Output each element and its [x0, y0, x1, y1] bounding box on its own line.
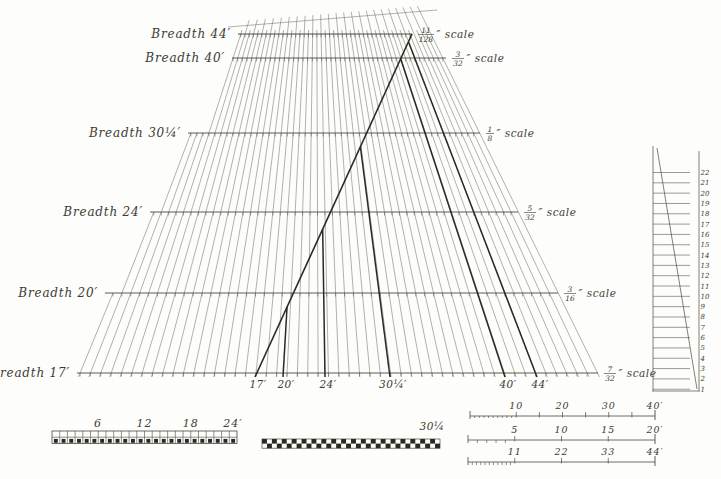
- fan-line: [344, 13, 391, 377]
- breadth-label: Breadth 44′: [150, 27, 231, 41]
- checker-cell: [425, 444, 430, 449]
- bar-dash: [123, 439, 127, 443]
- bar-dash: [200, 439, 204, 443]
- checker-cell: [292, 439, 297, 444]
- scale-fraction-numerator: 3: [456, 50, 461, 59]
- bar-dash: [100, 439, 104, 443]
- ruler-number: 16: [701, 231, 710, 239]
- fan-top-edge: [228, 10, 437, 27]
- checker-cell: [396, 444, 401, 449]
- bold-ray: [323, 229, 325, 377]
- fan-line: [366, 11, 453, 377]
- breadth-label: Breadth 20′: [17, 286, 98, 300]
- foot-ruler-number: 10: [509, 400, 523, 411]
- scale-label: ″ scale: [619, 367, 657, 379]
- checker-cell: [326, 444, 331, 449]
- scale-label: ″ scale: [497, 127, 535, 139]
- scale-fraction-numerator: 5: [528, 204, 533, 213]
- bar-number: 12: [137, 417, 153, 430]
- breadth-label: Breadth 17′: [0, 366, 70, 380]
- bar-dash: [54, 439, 58, 443]
- fan-line: [297, 30, 308, 377]
- ruler-number: 19: [701, 200, 710, 208]
- bar-dash: [92, 439, 96, 443]
- foot-ruler-number: 40′: [645, 400, 663, 411]
- scale-label: ″ scale: [467, 52, 505, 64]
- diagonal-scale-ruler: 22212019181716151413121110987654321: [652, 146, 710, 394]
- fan-line: [151, 30, 250, 377]
- scale-fraction-denominator: 128: [419, 35, 434, 44]
- ruler-number: 13: [701, 262, 710, 270]
- bar-dash: [216, 439, 220, 443]
- checker-cell: [410, 439, 415, 444]
- fan-line: [342, 30, 381, 377]
- scale-bar-checker: 30¼: [262, 420, 445, 448]
- bar-dash: [193, 439, 197, 443]
- fan-line: [172, 30, 258, 377]
- checker-cell: [316, 444, 321, 449]
- bold-lines: [255, 34, 537, 377]
- foot-ruler-number: 44′: [645, 446, 663, 457]
- bar-dash: [139, 439, 143, 443]
- checker-cell: [361, 439, 366, 444]
- checker-cell: [277, 444, 282, 449]
- fan-line: [308, 15, 313, 377]
- foot-ruler-number: 10: [554, 424, 568, 435]
- proportional-scale-diagram: Breadth 44′11128″ scaleBreadth 40′332″ s…: [0, 0, 721, 479]
- scale-fraction-denominator: 32: [525, 213, 535, 222]
- fan-line: [245, 17, 289, 377]
- bold-ray: [283, 307, 287, 377]
- ruler-number: 1: [701, 386, 705, 394]
- bar-dash: [69, 439, 73, 443]
- checker-cell: [391, 439, 396, 444]
- checker-cell: [430, 439, 435, 444]
- fan-line: [89, 212, 154, 377]
- checker-cell: [267, 444, 272, 449]
- scale-label: ″ scale: [579, 287, 617, 299]
- bar-dash: [85, 439, 89, 443]
- checker-cell: [331, 439, 336, 444]
- fan-line: [417, 30, 569, 377]
- ruler-number: 3: [701, 365, 706, 373]
- ruler-number: 11: [701, 283, 710, 291]
- scale-fraction-numerator: 3: [568, 285, 573, 294]
- ruler-number: 4: [700, 355, 705, 363]
- bar-dash: [131, 439, 135, 443]
- fan-line: [78, 293, 113, 377]
- fan-line: [367, 30, 443, 377]
- bar-dash: [177, 439, 181, 443]
- checker-cell: [341, 439, 346, 444]
- checker-cell: [381, 439, 386, 444]
- fan-line: [131, 30, 243, 377]
- checker-cell: [400, 439, 405, 444]
- axis-foot-label: 40′: [498, 378, 516, 390]
- bar-dash: [116, 439, 120, 443]
- bar-dash: [154, 439, 158, 443]
- scale-fraction-denominator: 8: [488, 134, 493, 143]
- checker-cell: [371, 439, 376, 444]
- axis-foot-label: 17′: [249, 378, 266, 390]
- foot-ruler-number: 11: [508, 446, 522, 457]
- bar-number: 24′: [222, 417, 243, 430]
- ruler-number: 12: [701, 272, 710, 280]
- ruler-number: 14: [701, 252, 710, 260]
- bar-dash: [231, 439, 235, 443]
- breadth-labels: Breadth 44′11128″ scaleBreadth 40′332″ s…: [0, 26, 656, 384]
- checker-cell: [420, 439, 425, 444]
- ruler-number: 7: [701, 324, 706, 332]
- ruler-number: 6: [701, 334, 706, 342]
- fan-line: [266, 16, 297, 377]
- bar-dash: [223, 439, 227, 443]
- bar-dash: [208, 439, 212, 443]
- breadth-label: Breadth 40′: [144, 51, 225, 65]
- fan-line: [359, 11, 433, 377]
- scale-fraction-denominator: 16: [565, 294, 575, 303]
- checker-cell: [435, 444, 440, 449]
- checker-cell: [376, 444, 381, 449]
- ruler-number: 5: [701, 344, 706, 352]
- ruler-number: 18: [701, 210, 710, 218]
- ruler-diagonal: [657, 148, 697, 389]
- scale-fraction-numerator: 1: [488, 125, 493, 134]
- checker-cell: [405, 444, 410, 449]
- fan-line: [408, 30, 547, 377]
